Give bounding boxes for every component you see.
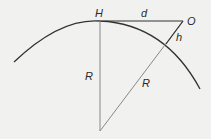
label-R-vertical: R (85, 70, 93, 82)
label-R-slanted: R (142, 77, 150, 89)
label-d: d (141, 7, 148, 19)
label-h: h (176, 31, 182, 43)
label-O: O (187, 15, 196, 27)
label-H: H (95, 7, 103, 19)
earth-surface-arc (14, 21, 200, 89)
horizon-diagram: H d O h R R (0, 0, 211, 139)
